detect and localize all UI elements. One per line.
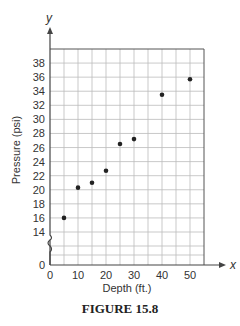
figure-caption: FIGURE 15.8 — [0, 301, 240, 317]
y-tick-label: 36 — [33, 71, 45, 83]
y-tick-label: 24 — [33, 156, 45, 168]
y-tick-label: 20 — [33, 184, 45, 196]
x-tick-label: 10 — [72, 269, 84, 281]
y-tick-label: 26 — [33, 142, 45, 154]
y-tick-label: 22 — [33, 170, 45, 182]
plot-area — [50, 49, 204, 265]
x-tick-label: 40 — [156, 269, 168, 281]
data-point — [62, 216, 67, 221]
data-point — [188, 77, 193, 82]
data-point — [90, 180, 95, 185]
y-tick-label: 18 — [33, 198, 45, 210]
scatter-chart: yx01416182022242628303234363801020304050… — [0, 0, 240, 326]
y-axis-arrow-icon — [47, 27, 53, 34]
y-axis-label: Pressure (psi) — [10, 116, 22, 184]
y-tick-label: 14 — [33, 226, 45, 238]
y-tick-label: 30 — [33, 113, 45, 125]
x-tick-label: 20 — [100, 269, 112, 281]
data-point — [160, 92, 165, 97]
x-axis-label: Depth (ft.) — [103, 282, 152, 294]
x-axis-variable: x — [229, 258, 237, 272]
x-axis-arrow-icon — [219, 262, 226, 268]
data-point — [104, 168, 109, 173]
y-tick-label: 0 — [39, 259, 45, 271]
y-tick-label: 28 — [33, 127, 45, 139]
x-tick-label: 0 — [47, 269, 53, 281]
y-tick-label: 32 — [33, 99, 45, 111]
y-tick-label: 38 — [33, 57, 45, 69]
y-tick-label: 34 — [33, 85, 45, 97]
x-tick-label: 30 — [128, 269, 140, 281]
data-point — [76, 185, 81, 190]
data-point — [118, 142, 123, 147]
x-tick-label: 50 — [184, 269, 196, 281]
y-tick-label: 16 — [33, 212, 45, 224]
y-axis-variable: y — [45, 11, 53, 25]
data-point — [132, 137, 137, 142]
